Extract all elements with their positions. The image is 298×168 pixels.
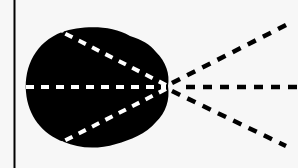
notch-top — [60, 29, 64, 33]
outer-rays — [172, 25, 298, 146]
polar-pattern-diagram — [0, 0, 298, 168]
notch-bottom — [60, 141, 64, 145]
outer-ray-lower — [172, 91, 286, 146]
outer-ray-upper — [172, 25, 286, 83]
